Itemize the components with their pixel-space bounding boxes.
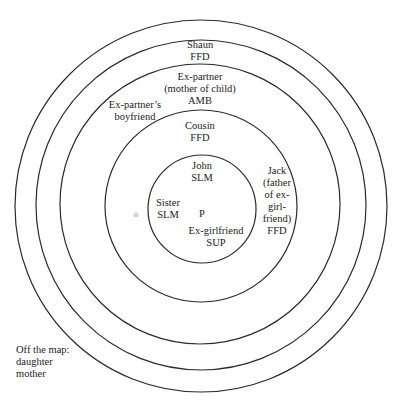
ex-partner-code: AMB bbox=[188, 95, 212, 106]
off-map-mother: mother bbox=[16, 368, 46, 379]
center-label-p: P bbox=[199, 208, 205, 219]
ex-partner-line-1: Ex-partner bbox=[178, 71, 223, 82]
jack-code: FFD bbox=[267, 225, 287, 236]
jack-line-1: Jack bbox=[268, 165, 287, 176]
shaun-name: Shaun bbox=[187, 39, 214, 50]
off-map-daughter: daughter bbox=[16, 356, 53, 367]
jack-line-5: friend) bbox=[263, 213, 292, 225]
ex-girlfriend-name: Ex-girlfriend bbox=[189, 225, 245, 236]
jack-line-3: of ex- bbox=[265, 189, 290, 200]
scan-artifact-dot bbox=[134, 213, 139, 218]
ex-girlfriend-code: SUP bbox=[206, 237, 225, 248]
shaun-code: FFD bbox=[190, 51, 210, 62]
ex-partners-boyfriend-line-1: Ex-partner’s bbox=[109, 99, 161, 110]
john-name: John bbox=[192, 160, 213, 171]
sister-code: SLM bbox=[157, 209, 179, 220]
john-code: SLM bbox=[191, 172, 213, 183]
off-map-title: Off the map: bbox=[16, 344, 70, 355]
jack-line-2: (father bbox=[263, 177, 291, 189]
ex-partners-boyfriend-line-2: boyfriend bbox=[115, 111, 157, 122]
cousin-name: Cousin bbox=[185, 120, 216, 131]
sister-name: Sister bbox=[156, 197, 180, 208]
jack-line-4: girl- bbox=[268, 201, 287, 212]
network-map-diagram: P John SLM Sister SLM Ex-girlfriend SUP … bbox=[0, 0, 400, 407]
cousin-code: FFD bbox=[190, 132, 210, 143]
ex-partner-line-2: (mother of child) bbox=[164, 83, 236, 95]
